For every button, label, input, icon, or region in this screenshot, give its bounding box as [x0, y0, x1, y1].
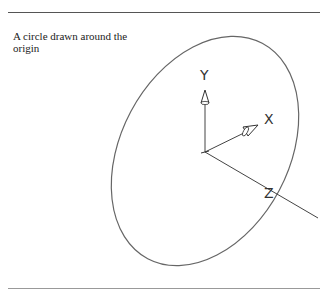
x-axis-arrow-icon — [241, 125, 258, 137]
x-axis-label: X — [264, 111, 274, 127]
z-axis-label: Z — [264, 185, 274, 201]
ucs-diagram: Y X Z — [0, 0, 336, 291]
y-axis-arrow-icon — [201, 90, 209, 105]
bottom-divider — [8, 288, 320, 289]
z-axis-line — [205, 152, 318, 218]
y-axis-label: Y — [199, 67, 209, 83]
